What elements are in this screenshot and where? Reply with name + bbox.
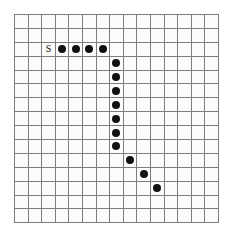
grid-cell[interactable] [110, 84, 124, 98]
grid-cell[interactable] [29, 57, 43, 71]
grid-cell[interactable] [29, 71, 43, 85]
grid-cell[interactable] [29, 98, 43, 112]
grid-cell[interactable] [178, 140, 192, 154]
grid-cell[interactable] [192, 71, 206, 85]
grid-cell[interactable] [165, 15, 179, 29]
grid-cell[interactable] [56, 29, 70, 43]
grid-cell[interactable] [151, 15, 165, 29]
grid-cell[interactable] [69, 140, 83, 154]
grid-cell[interactable] [192, 168, 206, 182]
grid-cell[interactable] [69, 126, 83, 140]
grid-cell[interactable] [83, 98, 97, 112]
grid-cell[interactable] [97, 126, 111, 140]
grid-cell[interactable] [97, 196, 111, 210]
grid-cell[interactable] [29, 196, 43, 210]
grid-cell[interactable] [124, 29, 138, 43]
grid-cell[interactable] [205, 98, 219, 112]
grid-cell[interactable] [124, 209, 138, 223]
grid-cell[interactable] [192, 15, 206, 29]
grid-cell[interactable] [110, 154, 124, 168]
grid-cell[interactable] [97, 15, 111, 29]
grid-cell[interactable] [97, 43, 111, 57]
grid-cell[interactable] [151, 196, 165, 210]
grid-cell[interactable] [42, 57, 56, 71]
grid-cell[interactable] [83, 168, 97, 182]
grid-cell[interactable] [151, 140, 165, 154]
grid-cell[interactable] [178, 15, 192, 29]
grid-cell[interactable] [178, 126, 192, 140]
grid-cell[interactable] [178, 182, 192, 196]
grid-cell[interactable] [42, 98, 56, 112]
grid-cell[interactable] [151, 57, 165, 71]
grid-cell[interactable] [124, 71, 138, 85]
grid-cell[interactable] [165, 126, 179, 140]
grid-cell[interactable] [110, 15, 124, 29]
grid-cell[interactable] [97, 29, 111, 43]
grid-cell[interactable] [42, 196, 56, 210]
grid-cell[interactable] [110, 182, 124, 196]
grid-cell[interactable] [42, 126, 56, 140]
grid-cell[interactable] [178, 43, 192, 57]
grid-cell[interactable] [178, 112, 192, 126]
grid-cell[interactable] [110, 43, 124, 57]
grid-cell[interactable] [205, 209, 219, 223]
grid-cell[interactable] [205, 168, 219, 182]
grid-cell[interactable] [137, 140, 151, 154]
grid-cell[interactable] [178, 98, 192, 112]
grid-cell[interactable] [29, 43, 43, 57]
grid-cell[interactable] [124, 140, 138, 154]
grid-cell[interactable] [29, 29, 43, 43]
grid-cell[interactable] [178, 196, 192, 210]
grid-cell[interactable] [56, 43, 70, 57]
grid-cell[interactable] [42, 168, 56, 182]
grid-cell[interactable] [42, 29, 56, 43]
grid-cell[interactable] [178, 209, 192, 223]
grid-cell[interactable] [137, 126, 151, 140]
grid-cell[interactable] [56, 140, 70, 154]
grid-cell[interactable] [15, 43, 29, 57]
grid-cell[interactable] [137, 154, 151, 168]
grid-cell[interactable] [42, 112, 56, 126]
grid-cell[interactable] [165, 71, 179, 85]
grid-cell[interactable] [137, 196, 151, 210]
grid-cell[interactable] [178, 29, 192, 43]
grid-cell[interactable] [124, 57, 138, 71]
grid-cell[interactable] [151, 71, 165, 85]
grid-cell[interactable] [83, 154, 97, 168]
grid-cell[interactable] [56, 209, 70, 223]
grid-cell[interactable] [29, 140, 43, 154]
grid-cell[interactable] [137, 168, 151, 182]
grid-cell[interactable] [192, 98, 206, 112]
grid-cell[interactable] [192, 112, 206, 126]
grid-cell[interactable] [137, 57, 151, 71]
grid-cell[interactable] [137, 43, 151, 57]
grid-cell[interactable] [69, 209, 83, 223]
grid-cell[interactable] [69, 84, 83, 98]
grid-cell[interactable] [110, 209, 124, 223]
grid-cell[interactable] [29, 126, 43, 140]
grid-cell[interactable] [15, 182, 29, 196]
grid-cell[interactable] [205, 126, 219, 140]
grid-cell[interactable] [151, 112, 165, 126]
grid-cell[interactable] [83, 71, 97, 85]
grid-cell[interactable] [83, 84, 97, 98]
grid-cell[interactable] [151, 154, 165, 168]
grid-cell[interactable] [83, 57, 97, 71]
grid-cell[interactable] [97, 84, 111, 98]
grid-cell[interactable] [137, 209, 151, 223]
grid-cell[interactable] [165, 154, 179, 168]
grid-cell[interactable] [56, 84, 70, 98]
grid-cell[interactable] [15, 29, 29, 43]
grid-cell[interactable] [192, 29, 206, 43]
grid-cell[interactable] [83, 15, 97, 29]
grid-cell[interactable] [69, 182, 83, 196]
grid-cell[interactable] [15, 154, 29, 168]
grid-cell[interactable] [165, 84, 179, 98]
grid-cell[interactable] [137, 29, 151, 43]
grid-cell[interactable] [165, 112, 179, 126]
grid-cell[interactable] [165, 140, 179, 154]
grid-cell[interactable] [205, 196, 219, 210]
grid-cell[interactable] [178, 168, 192, 182]
grid-cell[interactable] [165, 196, 179, 210]
grid-cell[interactable] [151, 84, 165, 98]
